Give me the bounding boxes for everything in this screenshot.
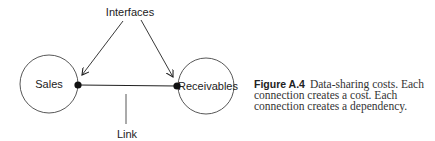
diagram-canvas: Sales Receivables Interfaces Link bbox=[0, 0, 435, 141]
node-sales: Sales bbox=[20, 55, 78, 113]
interfaces-label: Interfaces bbox=[106, 6, 155, 18]
sales-label: Sales bbox=[35, 78, 63, 90]
arrow-to-receivables-interface bbox=[141, 20, 173, 77]
interface-dot-sales bbox=[74, 81, 81, 88]
receivables-label: Receivables bbox=[178, 80, 238, 92]
node-receivables: Receivables bbox=[178, 58, 238, 114]
interface-dot-receivables bbox=[173, 82, 180, 89]
arrow-to-sales-interface bbox=[82, 21, 123, 75]
link-label: Link bbox=[117, 128, 138, 140]
link-line bbox=[78, 85, 177, 86]
figure-caption: Figure A.4Data-sharing costs. Each conne… bbox=[254, 79, 434, 112]
